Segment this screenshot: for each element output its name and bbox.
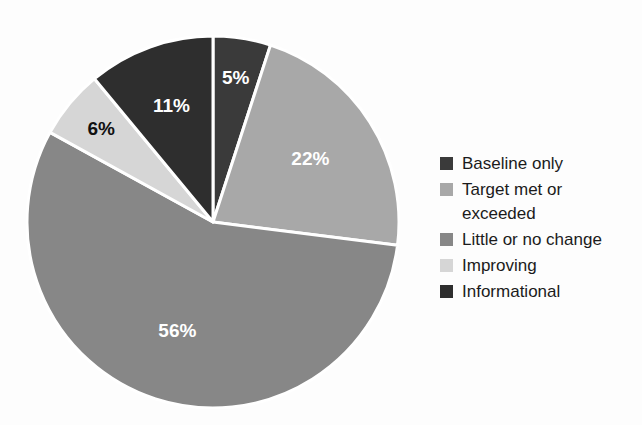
legend-item[interactable]: Baseline only (440, 152, 636, 176)
legend-swatch-icon (440, 285, 453, 298)
pie-slice-group (27, 36, 399, 408)
pie-chart-plot-area: 5%22%56%6%11% (26, 35, 400, 409)
legend-item[interactable]: Target met or exceeded (440, 178, 636, 226)
pie-slice-label: 22% (291, 148, 329, 169)
pie-chart-figure: 5%22%56%6%11% Baseline onlyTarget met or… (0, 0, 642, 425)
pie-slice-label: 6% (87, 118, 115, 139)
legend-item[interactable]: Little or no change (440, 228, 636, 252)
legend-item-label: Baseline only (462, 152, 563, 176)
legend-item-label: Improving (462, 254, 537, 278)
legend-swatch-icon (440, 259, 453, 272)
legend-item[interactable]: Informational (440, 280, 636, 304)
pie-slice-label: 11% (153, 95, 190, 116)
legend-swatch-icon (440, 183, 453, 196)
pie-slice-label: 56% (158, 320, 196, 341)
legend-item-label: Target met or exceeded (462, 178, 562, 226)
legend-swatch-icon (440, 233, 453, 246)
legend-item[interactable]: Improving (440, 254, 636, 278)
legend-swatch-icon (440, 157, 453, 170)
chart-legend: Baseline onlyTarget met or exceededLittl… (440, 152, 636, 306)
legend-item-label: Informational (462, 280, 560, 304)
pie-chart-svg: 5%22%56%6%11% (26, 35, 400, 409)
pie-slice-label: 5% (222, 67, 250, 88)
legend-item-label: Little or no change (462, 228, 602, 252)
